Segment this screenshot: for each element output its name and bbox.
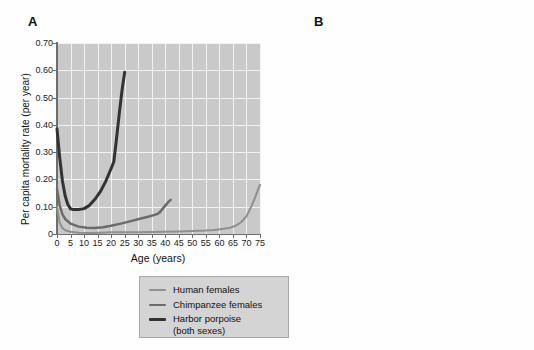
x-axis-tick-label: 25: [120, 238, 130, 248]
series-line-human-females: [57, 185, 260, 233]
legend-item-sublabel: (both sexes): [173, 325, 241, 337]
y-axis-tick-label: 0.70: [35, 38, 53, 48]
y-axis-tick: [53, 70, 57, 71]
legend-item: Harbor porpoise(both sexes): [149, 313, 279, 336]
legend-line-swatch: [149, 304, 166, 307]
x-axis-tick-label: 30: [133, 238, 143, 248]
x-axis-tick: [111, 234, 112, 238]
x-axis-tick: [71, 234, 72, 238]
x-axis-tick-label: 60: [214, 238, 224, 248]
y-axis-tick: [53, 98, 57, 99]
panel-a-x-axis-label: Age (years): [131, 252, 185, 264]
legend-item-label: Harbor porpoise(both sexes): [173, 313, 241, 336]
x-axis-tick-label: 35: [147, 238, 157, 248]
y-axis-tick: [53, 207, 57, 208]
x-axis-tick-label: 50: [187, 238, 197, 248]
x-axis-tick-label: 5: [68, 238, 73, 248]
x-axis-tick-label: 0: [54, 238, 59, 248]
x-axis-tick-label: 75: [255, 238, 265, 248]
legend-item: Human females: [149, 284, 279, 296]
y-axis-tick: [53, 179, 57, 180]
legend-line-swatch: [149, 318, 166, 321]
x-axis-tick-label: 10: [79, 238, 89, 248]
panel-a-y-tick-labels: 00.100.200.300.400.500.600.70: [21, 43, 53, 234]
x-axis-tick: [84, 234, 85, 238]
x-axis-tick-label: 70: [241, 238, 251, 248]
x-axis-tick: [233, 234, 234, 238]
panel-a-curves: [57, 43, 260, 234]
legend-line-swatch: [149, 289, 166, 291]
x-axis-tick: [57, 234, 58, 238]
x-axis-tick: [152, 234, 153, 238]
y-axis-tick-label: 0.40: [35, 120, 53, 130]
legend-item-label: Chimpanzee females: [173, 299, 262, 311]
panel-b: B Per capita mortality rate (per day) Ag…: [285, 0, 534, 350]
x-axis-tick-label: 20: [106, 238, 116, 248]
y-axis-tick-label: 0.60: [35, 65, 53, 75]
x-axis-tick-label: 15: [93, 238, 103, 248]
legend-item-label: Human females: [173, 284, 240, 296]
gridline-vertical: [260, 43, 261, 234]
panel-b-label: B: [314, 14, 324, 29]
panel-a-plot: [57, 43, 260, 234]
x-axis-tick: [179, 234, 180, 238]
x-axis-tick: [219, 234, 220, 238]
x-axis-tick: [165, 234, 166, 238]
x-axis-tick-label: 55: [201, 238, 211, 248]
x-axis-tick: [138, 234, 139, 238]
y-axis-tick: [53, 125, 57, 126]
panel-a-legend: Human femalesChimpanzee femalesHarbor po…: [139, 276, 289, 338]
legend-item: Chimpanzee females: [149, 299, 279, 311]
x-axis-tick: [206, 234, 207, 238]
x-axis-tick: [260, 234, 261, 238]
x-axis-tick-label: 40: [160, 238, 170, 248]
y-axis-tick-label: 0.20: [35, 174, 53, 184]
series-line-harbor-porpoise: [57, 72, 125, 209]
panel-a-label: A: [28, 14, 38, 29]
y-axis-tick-label: 0.30: [35, 147, 53, 157]
figure-mortality-rates: A Per capita mortality rate (per year) A…: [0, 0, 534, 350]
x-axis-tick: [98, 234, 99, 238]
x-axis-tick: [246, 234, 247, 238]
y-axis-tick: [53, 43, 57, 44]
y-axis-tick: [53, 152, 57, 153]
x-axis-tick-label: 45: [174, 238, 184, 248]
y-axis-tick-label: 0.10: [35, 202, 53, 212]
x-axis-tick: [125, 234, 126, 238]
panel-a-x-tick-labels: 051015202530354045505560657075: [57, 238, 260, 252]
y-axis-tick-label: 0.50: [35, 93, 53, 103]
x-axis-tick-label: 65: [228, 238, 238, 248]
panel-a: A Per capita mortality rate (per year) A…: [0, 0, 285, 350]
x-axis-tick: [192, 234, 193, 238]
